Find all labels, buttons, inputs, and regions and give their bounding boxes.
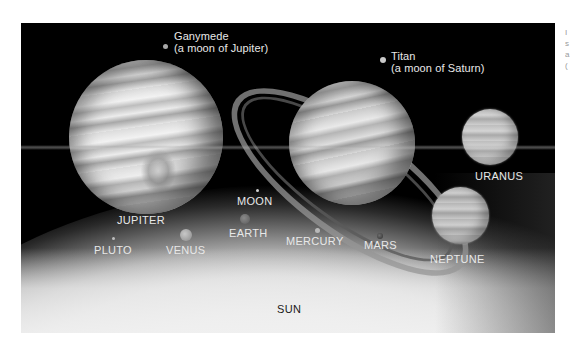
sun-label: SUN xyxy=(277,303,301,315)
ganymede-moon xyxy=(163,44,168,49)
ganymede-label: Ganymede (a moon of Jupiter) xyxy=(174,30,268,54)
ganymede-label-note: (a moon of Jupiter) xyxy=(174,42,268,54)
saturn-planet xyxy=(289,81,415,205)
uranus-label: URANUS xyxy=(475,170,523,182)
titan-label: Titan (a moon of Saturn) xyxy=(391,50,485,74)
side-caption-line: a xyxy=(565,49,573,60)
horizontal-streak xyxy=(21,145,555,150)
side-caption-line: ( xyxy=(565,60,573,71)
venus-planet xyxy=(180,229,192,241)
solar-system-figure: Ganymede (a moon of Jupiter) Titan (a mo… xyxy=(21,23,555,333)
mercury-label: MERCURY xyxy=(286,235,344,247)
jupiter-planet xyxy=(69,60,223,214)
venus-label: VENUS xyxy=(166,244,205,256)
ganymede-label-name: Ganymede xyxy=(174,30,268,42)
jupiter-label: JUPITER xyxy=(117,214,165,226)
moon-body xyxy=(256,189,259,192)
side-caption-line: I xyxy=(565,27,573,38)
page: Ganymede (a moon of Jupiter) Titan (a mo… xyxy=(0,0,573,345)
mars-label: MARS xyxy=(364,239,397,251)
earth-label: EARTH xyxy=(229,227,268,239)
side-caption-line: s xyxy=(565,38,573,49)
earth-planet xyxy=(240,214,250,224)
neptune-label: NEPTUNE xyxy=(430,253,485,265)
pluto-planet xyxy=(112,237,115,240)
pluto-label: PLUTO xyxy=(94,244,132,256)
mercury-planet xyxy=(315,228,320,233)
titan-label-note: (a moon of Saturn) xyxy=(391,62,485,74)
uranus-planet xyxy=(462,109,518,165)
titan-moon xyxy=(380,57,386,63)
side-caption-fragment: I s a ( xyxy=(565,27,573,71)
titan-label-name: Titan xyxy=(391,50,485,62)
neptune-planet xyxy=(432,187,489,244)
moon-label: MOON xyxy=(237,195,272,207)
